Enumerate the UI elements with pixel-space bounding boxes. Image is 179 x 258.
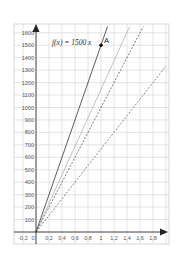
- x-tick-label: 0,8: [84, 235, 92, 241]
- function-label: f(x) = 1500 x: [52, 38, 92, 47]
- y-tick-label: 1300: [22, 67, 34, 73]
- y-tick-label: 1400: [22, 55, 34, 61]
- x-tick-label: 1,8: [149, 235, 157, 241]
- y-tick-label: 1600: [22, 30, 34, 36]
- y-tick-label: 800: [25, 129, 34, 135]
- x-tick-label: 0,2: [45, 235, 53, 241]
- y-tick-label: 100: [25, 217, 34, 223]
- y-tick-label: 500: [25, 167, 34, 173]
- line-chart: -0,200,20,40,60,811,21,41,61,81002003004…: [0, 0, 179, 258]
- y-tick-label: 200: [25, 204, 34, 210]
- x-tick-label: 1,2: [110, 235, 118, 241]
- y-tick-label: 1200: [22, 80, 34, 86]
- x-tick-label: 0: [31, 235, 34, 241]
- y-tick-label: 1100: [22, 92, 34, 98]
- y-tick-label: 700: [25, 142, 34, 148]
- x-tick-label: 1: [99, 235, 102, 241]
- x-tick-label: 0,4: [58, 235, 66, 241]
- plot-frame: [14, 24, 169, 244]
- x-tick-label: 0,6: [71, 235, 79, 241]
- y-tick-label: 1500: [22, 42, 34, 48]
- point-label: A: [104, 36, 109, 45]
- y-tick-label: 300: [25, 192, 34, 198]
- y-tick-label: 400: [25, 179, 34, 185]
- y-tick-label: 900: [25, 117, 34, 123]
- y-tick-label: 1000: [22, 105, 34, 111]
- x-tick-label: 1,6: [136, 235, 144, 241]
- point-marker: [99, 43, 103, 47]
- x-tick-label: -0,2: [18, 235, 27, 241]
- y-tick-label: 600: [25, 154, 34, 160]
- x-tick-label: 1,4: [123, 235, 131, 241]
